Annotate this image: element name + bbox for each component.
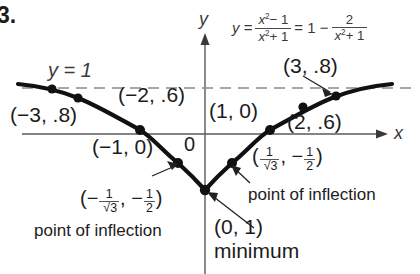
point-dot-pos3 (331, 91, 340, 100)
point-dot-neg2 (73, 93, 82, 102)
label-point-pos3: (3, .8) (283, 55, 338, 76)
equation: y =x2− 1x2+ 1= 1 −2x2+ 1 (232, 12, 370, 45)
y-axis-arrowhead (201, 33, 210, 45)
infl-left-comma: , (120, 187, 126, 209)
leader-arrow-inflection-right (231, 165, 241, 176)
infl-right-sqrt3: 3 (270, 159, 277, 173)
frac1-den-rest: + 1 (270, 30, 289, 45)
problem-number: 3. (0, 4, 16, 27)
leader-line-pos3 (303, 76, 330, 92)
origin-label: 0 (184, 134, 195, 154)
infl-right-open: ( (252, 145, 259, 167)
label-point-neg1: (−1, 0) (92, 136, 153, 157)
point-dot-pos1 (265, 125, 275, 135)
infl-right-frac-one-half: 12 (304, 146, 315, 173)
infl-right-close: ) (316, 145, 323, 167)
equation-fraction-2: 2x2+ 1 (332, 13, 368, 45)
leader-arrow-minimum (207, 192, 218, 202)
label-point-pos2: (2, .6) (287, 111, 342, 132)
label-inflection-right-caption: point of inflection (248, 186, 376, 203)
frac1-num-rest: − 1 (270, 12, 289, 27)
label-point-minimum: (0, 1) (214, 216, 263, 237)
asymptote-label: y = 1 (48, 60, 92, 80)
equation-equals-1: = (244, 19, 253, 36)
point-dot-neg3 (47, 84, 56, 93)
infl-right-half-num: 1 (304, 146, 315, 159)
label-point-neg2: (−2, .6) (118, 84, 185, 105)
infl-left-half-den: 2 (144, 201, 155, 215)
label-point-pos1: (1, 0) (209, 100, 258, 121)
point-dot-neg1 (135, 125, 145, 135)
equation-one: 1 (307, 19, 315, 36)
sqrt-icon: 3 (101, 202, 117, 215)
infl-right-comma: , (280, 145, 286, 167)
equation-equals-2: = (294, 19, 303, 36)
label-point-neg3: (−3, .8) (10, 104, 77, 125)
frac2-num: 2 (346, 12, 353, 27)
label-inflection-left: (−13, −12) (80, 188, 162, 215)
infl-left-half-num: 1 (144, 188, 155, 201)
equation-fraction-1: x2− 1x2+ 1 (255, 12, 291, 45)
infl-left-close: ) (156, 187, 163, 209)
infl-left-frac-one-over-sqrt3: 13 (99, 188, 119, 215)
infl-left-sqrt3: 3 (110, 201, 117, 215)
label-minimum-caption: minimum (214, 240, 299, 261)
infl-right-frac-one-over-sqrt3: 13 (260, 146, 280, 173)
infl-left-open: ( (80, 187, 87, 209)
infl-left-neg2: − (131, 187, 143, 209)
infl-right-neg: − (292, 145, 304, 167)
infl-right-one: 1 (260, 146, 280, 159)
y-axis-label: y (199, 10, 208, 28)
x-axis-label: x (394, 124, 403, 142)
infl-left-neg1: − (87, 187, 99, 209)
equation-lhs: y (232, 19, 240, 36)
infl-left-frac-one-half: 12 (144, 188, 155, 215)
label-inflection-left-caption: point of inflection (34, 222, 162, 239)
sqrt-icon: 3 (262, 160, 278, 173)
leader-arrow-pos3 (322, 88, 333, 97)
x-axis-arrowhead (376, 130, 388, 139)
frac2-den-rest: + 1 (346, 29, 365, 44)
label-inflection-right: (13, −12) (252, 146, 323, 173)
infl-right-half-den: 2 (304, 159, 315, 173)
infl-left-one: 1 (99, 188, 119, 201)
equation-minus: − (320, 19, 329, 36)
